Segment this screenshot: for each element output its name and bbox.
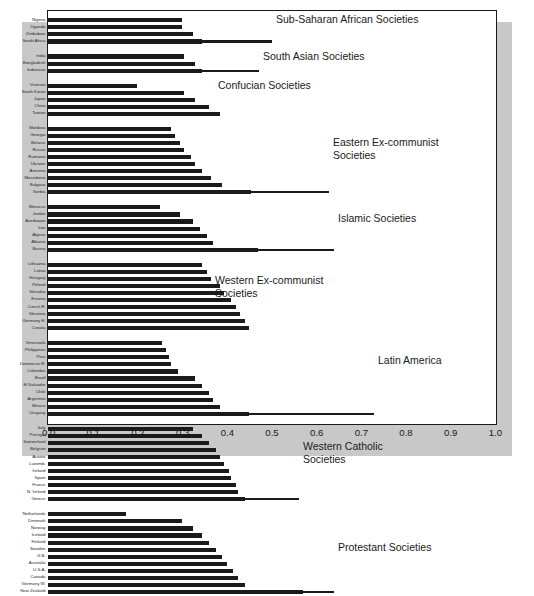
leader-line xyxy=(258,249,334,251)
category-label: Belarus xyxy=(31,139,46,146)
bar-row: Zimbabwe xyxy=(48,31,496,38)
category-label: Russia xyxy=(32,146,45,153)
bar-row: Argentina xyxy=(48,396,496,403)
leader-line xyxy=(202,40,272,42)
category-label: Albania xyxy=(31,238,45,245)
bar-group: VenezuelaPhilippinesPeruDominican R.Colo… xyxy=(48,340,496,418)
category-label: Switzerland xyxy=(23,438,45,445)
bar-row: G.B. xyxy=(48,553,496,560)
bar-row: Iran xyxy=(48,225,496,232)
category-label: Bosnia xyxy=(32,245,45,252)
category-label: France xyxy=(32,481,45,488)
bar xyxy=(48,312,240,316)
x-axis-tick-labels: 0.00.10.20.30.40.50.60.70.80.91.0 xyxy=(47,427,497,449)
category-label: Colombia xyxy=(27,367,45,374)
bar xyxy=(48,32,193,36)
bar xyxy=(48,355,169,359)
category-label: Germany E. xyxy=(23,317,46,324)
bar xyxy=(48,462,224,466)
bar xyxy=(48,384,202,388)
category-label: Australia xyxy=(29,559,46,566)
bar-row: Serbia xyxy=(48,189,496,196)
bar xyxy=(48,376,195,380)
group-annotation: Latin America xyxy=(378,354,442,367)
bar xyxy=(48,241,213,245)
bar xyxy=(48,155,191,159)
plot-frame: NigeriaUgandaZimbabweSouth AfricaSub-Sah… xyxy=(47,10,497,425)
bar xyxy=(48,105,209,109)
bar xyxy=(48,98,195,102)
bar xyxy=(48,405,220,409)
bar xyxy=(48,219,193,223)
bar-group: MoldovaGeorgiaBelarusRussiaRumaniaUkrain… xyxy=(48,126,496,196)
category-label: Peru xyxy=(36,353,45,360)
bar-row: Netherlands xyxy=(48,511,496,518)
bar xyxy=(48,190,251,194)
bar xyxy=(48,183,222,187)
category-label: South Africa xyxy=(22,37,45,44)
bar-row: Armenia xyxy=(48,168,496,175)
category-label: Canada xyxy=(30,573,45,580)
category-label: Azerbaijan xyxy=(25,217,45,224)
category-label: Slovenia xyxy=(29,310,45,317)
bar-row: Croatia xyxy=(48,325,496,332)
leader-line xyxy=(202,70,259,72)
bar xyxy=(48,298,231,302)
bar-group: VietnamSouth KoreaJapanChinaTaiwanConfuc… xyxy=(48,82,496,117)
bar-row: Indonesia xyxy=(48,67,496,74)
category-label: India xyxy=(36,52,45,59)
bar xyxy=(48,391,209,395)
category-label: Iran xyxy=(38,224,45,231)
x-tick-label: 0.4 xyxy=(221,427,234,438)
bar xyxy=(48,512,126,516)
bar xyxy=(48,25,182,29)
leader-line xyxy=(245,498,299,500)
bar xyxy=(48,169,202,173)
category-label: Algeria xyxy=(32,231,45,238)
bar xyxy=(48,576,238,580)
bar-row: Iceland xyxy=(48,532,496,539)
category-label: Czech R. xyxy=(28,303,46,310)
bar xyxy=(48,205,160,209)
category-label: Ireland xyxy=(32,467,45,474)
bar xyxy=(48,326,249,330)
bar xyxy=(48,483,236,487)
category-label: Bulgaria xyxy=(30,181,46,188)
bar xyxy=(48,18,182,22)
bar xyxy=(48,127,171,131)
category-label: Jordan xyxy=(32,210,45,217)
bar-row: Lithuania xyxy=(48,261,496,268)
bar xyxy=(48,291,224,295)
category-label: Hungary xyxy=(29,274,45,281)
x-tick-label: 0.9 xyxy=(444,427,457,438)
bar-row: Austria xyxy=(48,454,496,461)
category-label: Mexico xyxy=(32,402,46,409)
bar xyxy=(48,212,180,216)
category-label: Latvia xyxy=(34,267,45,274)
leader-line xyxy=(249,413,374,415)
category-label: Luxemb. xyxy=(29,460,46,467)
category-label: Belgium xyxy=(30,445,46,452)
bar xyxy=(48,519,182,523)
category-label: Croatia xyxy=(32,324,46,331)
category-label: Venezuela xyxy=(25,339,45,346)
bar xyxy=(48,348,166,352)
bar xyxy=(48,583,245,587)
group-annotation: Eastern Ex-communistSocieties xyxy=(333,136,439,162)
category-label: Brazil xyxy=(35,374,46,381)
x-tick-label: 0.3 xyxy=(176,427,189,438)
bar-row: Ukraine xyxy=(48,161,496,168)
category-label: Bangladesh xyxy=(23,59,46,66)
category-label: Uruguay xyxy=(29,409,45,416)
bar xyxy=(48,541,209,545)
category-label: Macedonia xyxy=(24,174,45,181)
x-tick-label: 0.5 xyxy=(265,427,278,438)
category-label: Armenia xyxy=(30,167,46,174)
bar-row: Germany W. xyxy=(48,582,496,589)
bar xyxy=(48,590,303,594)
category-label: Taiwan xyxy=(32,109,45,116)
bar-row: Azerbaijan xyxy=(48,218,496,225)
category-label: Serbia xyxy=(33,188,45,195)
group-annotation: South Asian Societies xyxy=(263,50,365,63)
